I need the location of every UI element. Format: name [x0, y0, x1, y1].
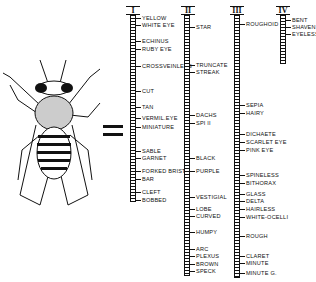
gene-label: LOBE [190, 206, 212, 212]
equals-sign [103, 125, 123, 139]
gene-label: TAN [136, 104, 153, 110]
gene-label: FORKED BRIST. [136, 168, 187, 174]
gene-label: HAIRLESS [240, 206, 275, 212]
gene-label: SABLE [136, 148, 161, 154]
gene-label: BENT [286, 17, 308, 23]
gene-label: DACHS [190, 112, 217, 118]
gene-label: PLEXUS [190, 253, 219, 259]
gene-label: MINUTE [240, 260, 269, 266]
gene-label: MINIATURE [136, 124, 174, 130]
gene-label: SPECK [190, 268, 216, 274]
gene-label: SPINELESS [240, 172, 279, 178]
gene-label: BOBBED [136, 197, 167, 203]
gene-label: ROUGHOID [240, 21, 278, 27]
gene-label: PURPLE [190, 168, 220, 174]
gene-label: HUMPY [190, 229, 217, 235]
gene-label: DELTA [240, 198, 264, 204]
gene-label: YELLOW [136, 15, 167, 21]
gene-label: EYELESS [286, 31, 316, 37]
gene-label: HAIRY [240, 110, 264, 116]
gene-label: STREAK [190, 69, 220, 75]
gene-label: DICHAETE [240, 131, 276, 137]
gene-label: STAR [190, 24, 211, 30]
gene-label: WHITE EYE [136, 22, 175, 28]
gene-label: VERMIL.EYE [136, 115, 178, 121]
gene-label: BAR [136, 176, 154, 182]
gene-label: BLACK [190, 155, 215, 161]
gene-label: SEPIA [240, 102, 263, 108]
fly-illustration [0, 55, 110, 215]
gene-label: GARNET [136, 155, 167, 161]
gene-label: TRUNCATE [190, 62, 228, 68]
gene-label: ARC [190, 246, 208, 252]
gene-label: RUBY EYE [136, 46, 172, 52]
gene-label: SCARLET EYE [240, 139, 287, 145]
gene-label: GLASS [240, 191, 266, 197]
fruit-fly-icon [0, 55, 110, 215]
chromosome-II-bar [184, 14, 190, 276]
gene-label: CLEFT [136, 189, 161, 195]
gene-label: ROUGH [240, 233, 268, 239]
gene-label: PINK EYE [240, 147, 273, 153]
gene-label: MINUTE G. [240, 270, 277, 276]
gene-label: CURVED [190, 213, 221, 219]
gene-label: SPI II [190, 120, 211, 126]
gene-label: ECHINUS [136, 38, 169, 44]
gene-label: VESTIGIAL [190, 194, 227, 200]
gene-label: BITHORAX [240, 180, 276, 186]
gene-label: CUT [136, 88, 154, 94]
gene-label: BROWN [190, 261, 218, 267]
gene-label: WHITE-OCELLI [240, 214, 288, 220]
gene-label: CLARET [240, 253, 269, 259]
gene-label: SHAVEN [286, 24, 316, 30]
